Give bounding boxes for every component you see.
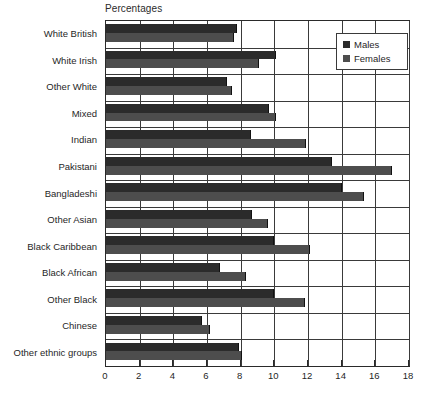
category-label: Mixed	[72, 107, 97, 118]
legend-swatch-males-icon	[343, 41, 350, 48]
axis-tick-label: 14	[335, 370, 346, 381]
legend-label-females: Females	[354, 53, 390, 64]
bar-group	[106, 313, 409, 340]
bar-group	[106, 339, 409, 366]
bar-group	[106, 154, 409, 181]
bar-males	[106, 157, 332, 166]
bar-females	[106, 325, 210, 334]
chart-title: Percentages	[105, 3, 162, 14]
axis-tick-label: 12	[302, 370, 313, 381]
category-label: Chinese	[62, 320, 97, 331]
bar-females	[106, 298, 305, 307]
axis-tick-mark	[341, 360, 342, 366]
axis-tick-mark	[206, 360, 207, 366]
axis-tick-label: 4	[170, 370, 175, 381]
axis-tick-mark	[139, 360, 140, 366]
bar-females	[106, 139, 306, 148]
bar-group	[106, 127, 409, 154]
bar-females	[106, 192, 364, 201]
bar-males	[106, 316, 202, 325]
bar-males	[106, 210, 252, 219]
category-label: Bangladeshi	[45, 187, 97, 198]
category-label: White Irish	[52, 54, 97, 65]
bar-males	[106, 183, 342, 192]
category-label: Other White	[46, 81, 97, 92]
category-axis-labels: White BritishWhite IrishOther WhiteMixed…	[0, 20, 101, 365]
bar-females	[106, 59, 259, 68]
bar-males	[106, 51, 276, 60]
bar-group	[106, 260, 409, 287]
bar-females	[106, 86, 232, 95]
category-label: Other Asian	[47, 214, 97, 225]
category-label: Indian	[71, 134, 97, 145]
axis-tick-label: 2	[136, 370, 141, 381]
axis-tick-label: 10	[268, 370, 279, 381]
plot-area	[105, 20, 410, 367]
legend-swatch-females-icon	[343, 55, 350, 62]
category-label: Other ethnic groups	[14, 346, 97, 357]
bar-males	[106, 77, 227, 86]
bar-chart: Percentages White BritishWhite IrishOthe…	[0, 0, 426, 403]
value-axis: 024681012141618	[0, 366, 426, 396]
bar-males	[106, 289, 274, 298]
category-label: Black Caribbean	[27, 240, 97, 251]
bar-group	[106, 74, 409, 101]
bar-males	[106, 130, 251, 139]
axis-tick-label: 18	[403, 370, 414, 381]
category-label: Other Black	[47, 293, 97, 304]
legend-item-females: Females	[343, 53, 403, 64]
axis-tick-label: 8	[237, 370, 242, 381]
axis-tick-mark	[307, 360, 308, 366]
bar-males	[106, 263, 220, 272]
bar-females	[106, 245, 310, 254]
bar-females	[106, 351, 242, 360]
bar-males	[106, 343, 239, 352]
chart-legend: Males Females	[336, 33, 408, 70]
legend-label-males: Males	[354, 39, 379, 50]
bar-rows	[106, 21, 409, 366]
category-label: Pakistani	[58, 160, 97, 171]
axis-tick-mark	[408, 360, 409, 366]
bar-males	[106, 24, 237, 33]
bar-group	[106, 286, 409, 313]
bar-females	[106, 166, 392, 175]
bar-males	[106, 104, 269, 113]
bar-group	[106, 233, 409, 260]
category-label: Black African	[42, 267, 97, 278]
axis-tick-label: 6	[203, 370, 208, 381]
axis-tick-label: 16	[369, 370, 380, 381]
bar-females	[106, 33, 234, 42]
bar-females	[106, 272, 246, 281]
axis-tick-mark	[240, 360, 241, 366]
gridline	[409, 21, 410, 366]
legend-item-males: Males	[343, 39, 403, 50]
category-label: White British	[44, 28, 97, 39]
axis-tick-mark	[374, 360, 375, 366]
axis-tick-mark	[273, 360, 274, 366]
bar-group	[106, 180, 409, 207]
bar-group	[106, 101, 409, 128]
axis-tick-mark	[105, 360, 106, 366]
axis-tick-label: 0	[102, 370, 107, 381]
bar-males	[106, 236, 274, 245]
axis-tick-mark	[172, 360, 173, 366]
bar-females	[106, 113, 276, 122]
bar-females	[106, 219, 268, 228]
bar-group	[106, 207, 409, 234]
